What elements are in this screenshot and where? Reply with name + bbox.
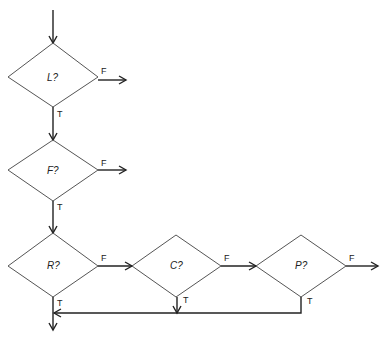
decision-p: P? bbox=[256, 235, 346, 297]
decision-l-false-label: F bbox=[101, 66, 107, 76]
decision-p-false-label: F bbox=[349, 253, 355, 263]
decision-r-label: R? bbox=[47, 260, 60, 271]
decision-r-false-label: F bbox=[101, 253, 107, 263]
decision-l-true-label: T bbox=[57, 109, 63, 119]
decision-f-label: F? bbox=[47, 165, 59, 176]
decision-p-true-label: T bbox=[307, 296, 313, 306]
decision-c-label: C? bbox=[170, 260, 183, 271]
decision-c-true-label: T bbox=[183, 295, 189, 305]
decision-c: C? bbox=[132, 235, 221, 297]
decision-l-label: L? bbox=[47, 72, 59, 83]
decision-p-label: P? bbox=[295, 260, 308, 271]
decision-c-false-label: F bbox=[224, 253, 230, 263]
decision-r-true-label: T bbox=[57, 298, 63, 308]
flowchart-canvas: L? F T F? F T R? F T C? F T P? F T bbox=[0, 0, 386, 340]
decision-f-true-label: T bbox=[57, 202, 63, 212]
decision-f: F? bbox=[8, 140, 98, 201]
decision-l: L? bbox=[8, 43, 98, 107]
decision-f-false-label: F bbox=[101, 158, 107, 168]
decision-r: R? bbox=[8, 233, 98, 297]
